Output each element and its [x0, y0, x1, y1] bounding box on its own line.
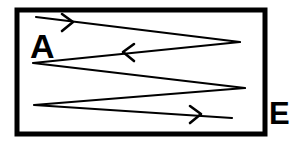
zigzag-path-diagram: A E: [0, 0, 294, 144]
diagram-canvas: A E: [0, 0, 294, 144]
start-label-a: A: [30, 27, 55, 65]
end-label-e: E: [269, 96, 290, 131]
